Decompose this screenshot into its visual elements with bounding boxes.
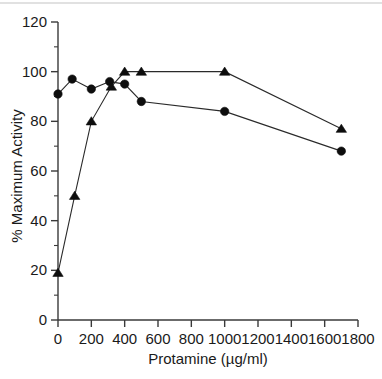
- series-circle: [54, 75, 346, 155]
- x-tick-label: 0: [54, 330, 62, 347]
- x-tick-label: 400: [112, 330, 137, 347]
- x-tick-label: 1800: [341, 330, 374, 347]
- data-point-triangle: [86, 117, 96, 125]
- y-axis-title: % Maximum Activity: [8, 109, 25, 243]
- data-point-circle: [54, 90, 62, 98]
- series-triangle: [53, 67, 347, 276]
- data-point-triangle: [69, 191, 79, 199]
- data-point-circle: [220, 107, 228, 115]
- x-tick-label: 1200: [241, 330, 274, 347]
- x-tick-labels: 020040060080010001200140016001800: [54, 330, 375, 347]
- data-point-circle: [68, 75, 76, 83]
- data-point-circle: [120, 80, 128, 88]
- chart-plot: 020040060080010001200140016001800 020406…: [0, 0, 382, 379]
- y-tick-label: 60: [30, 162, 47, 179]
- x-tick-label: 200: [79, 330, 104, 347]
- y-tick-label: 120: [22, 13, 47, 30]
- x-axis-title: Protamine (µg/ml): [148, 350, 268, 367]
- data-point-circle: [87, 85, 95, 93]
- ticks-group: [51, 22, 358, 327]
- y-tick-label: 40: [30, 212, 47, 229]
- y-tick-label: 0: [39, 311, 47, 328]
- data-point-circle: [137, 97, 145, 105]
- data-point-triangle: [336, 124, 346, 132]
- series-line-circle: [58, 79, 341, 151]
- data-point-circle: [337, 147, 345, 155]
- figure-container: 020040060080010001200140016001800 020406…: [0, 0, 382, 379]
- y-tick-label: 20: [30, 261, 47, 278]
- x-tick-label: 1400: [275, 330, 308, 347]
- x-tick-label: 1000: [208, 330, 241, 347]
- y-tick-labels: 020406080100120: [22, 13, 47, 328]
- y-tick-label: 100: [22, 63, 47, 80]
- axes-group: [58, 22, 358, 320]
- x-tick-label: 600: [145, 330, 170, 347]
- data-series-group: [53, 67, 347, 276]
- series-line-triangle: [58, 72, 341, 273]
- x-tick-label: 800: [179, 330, 204, 347]
- data-point-triangle: [53, 268, 63, 276]
- x-tick-label: 1600: [308, 330, 341, 347]
- y-tick-label: 80: [30, 112, 47, 129]
